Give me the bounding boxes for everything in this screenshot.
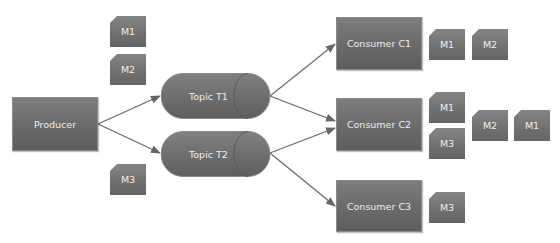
message-m1: M1 bbox=[110, 16, 146, 47]
arrow-producer-t2 bbox=[98, 124, 160, 153]
c2-message-m1: M1 bbox=[429, 92, 465, 123]
c1-message-m2: M2 bbox=[472, 29, 508, 60]
arrow-t1-c2 bbox=[270, 96, 335, 121]
consumer-c3-node: Consumer C3 bbox=[336, 180, 422, 232]
c1-message-m1: M1 bbox=[429, 29, 465, 60]
consumer-c1-node: Consumer C1 bbox=[336, 17, 422, 70]
arrow-producer-t1 bbox=[98, 96, 160, 124]
topic-t1-label: Topic T1 bbox=[161, 73, 256, 119]
topic-t1-node: Topic T1 bbox=[161, 73, 271, 119]
arrow-t2-c3 bbox=[270, 153, 335, 206]
c2-message-m1-second: M1 bbox=[514, 110, 550, 141]
message-m2: M2 bbox=[110, 54, 146, 85]
c3-message-m3: M3 bbox=[429, 192, 465, 223]
c2-message-m3: M3 bbox=[429, 128, 465, 159]
producer-node: Producer bbox=[12, 97, 98, 151]
arrow-t2-c2 bbox=[270, 128, 335, 153]
producer-label: Producer bbox=[34, 119, 76, 130]
arrow-t1-c1 bbox=[270, 44, 335, 96]
consumer-c2-node: Consumer C2 bbox=[336, 98, 422, 151]
c2-message-m2: M2 bbox=[472, 110, 508, 141]
topic-t2-node: Topic T2 bbox=[161, 131, 271, 177]
topic-t2-label: Topic T2 bbox=[161, 131, 256, 177]
message-m3: M3 bbox=[110, 164, 146, 195]
